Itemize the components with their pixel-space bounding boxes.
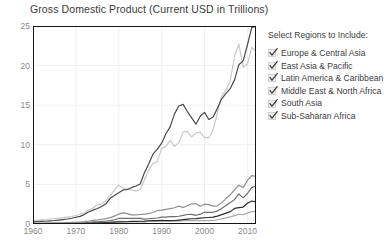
y-axis-tick-label: 20 <box>4 61 30 71</box>
x-axis-tick-label: 1980 <box>109 226 128 236</box>
region-checkbox[interactable] <box>268 112 276 120</box>
check-icon <box>268 98 279 109</box>
region-checkbox[interactable] <box>268 74 276 82</box>
legend-item-label: Europe & Central Asia <box>281 47 366 60</box>
legend-item[interactable]: Sub-Saharan Africa <box>268 110 390 123</box>
region-checkbox[interactable] <box>268 62 276 70</box>
y-axis-ticks: 0510152025 <box>0 26 30 224</box>
series-line <box>33 201 256 224</box>
legend-item-list: Europe & Central AsiaEast Asia & Pacific… <box>268 47 390 123</box>
legend-item-label: Middle East & North Africa <box>281 85 381 98</box>
legend-item-label: Latin America & Caribbean <box>281 72 383 85</box>
series-line <box>33 44 256 220</box>
check-icon <box>268 72 279 83</box>
x-axis-tick-label: 1990 <box>152 226 171 236</box>
y-axis-tick-label: 10 <box>4 140 30 150</box>
y-axis-tick-label: 5 <box>4 179 30 189</box>
legend-item[interactable]: Middle East & North Africa <box>268 85 390 98</box>
chart-plot-area <box>33 26 256 224</box>
x-axis-tick-label: 1970 <box>66 226 85 236</box>
series-line <box>33 26 256 222</box>
x-axis-ticks: 196019701980199020002010 <box>33 226 256 240</box>
legend-item[interactable]: Latin America & Caribbean <box>268 72 390 85</box>
check-icon <box>268 85 279 96</box>
x-axis-tick-label: 2000 <box>195 226 214 236</box>
legend-item-label: South Asia <box>281 97 322 110</box>
check-icon <box>268 110 279 121</box>
legend-item-label: East Asia & Pacific <box>281 60 353 73</box>
legend-item[interactable]: South Asia <box>268 97 390 110</box>
x-axis-tick-label: 2010 <box>238 226 257 236</box>
page-title: Gross Domestic Product (Current USD in T… <box>30 3 268 15</box>
check-icon <box>268 60 279 71</box>
legend-item[interactable]: Europe & Central Asia <box>268 47 390 60</box>
region-checkbox[interactable] <box>268 87 276 95</box>
check-icon <box>268 47 279 58</box>
region-checkbox[interactable] <box>268 100 276 108</box>
legend-item-label: Sub-Saharan Africa <box>281 110 356 123</box>
y-axis-tick-label: 25 <box>4 21 30 31</box>
gdp-line-chart <box>33 26 256 224</box>
legend-item[interactable]: East Asia & Pacific <box>268 60 390 73</box>
legend-title: Select Regions to Include: <box>268 30 390 40</box>
y-axis-tick-label: 15 <box>4 100 30 110</box>
x-axis-tick-label: 1960 <box>24 226 43 236</box>
region-checkbox[interactable] <box>268 49 276 57</box>
legend-panel: Select Regions to Include: Europe & Cent… <box>268 30 390 123</box>
series-line <box>33 176 256 224</box>
